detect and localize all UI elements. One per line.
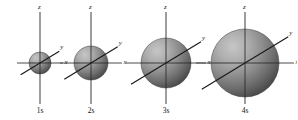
orbital-3s (126, 12, 206, 104)
orbital-name-label: 1s (30, 107, 50, 115)
orbital-name-label: 2s (81, 107, 101, 115)
orbital-name-label: 3s (156, 107, 176, 115)
y-axis-label: y (119, 40, 122, 47)
s-orbital-figure: zxy1szxy2szxy3szxy4s (0, 0, 297, 120)
orbital-name-label: 4s (235, 107, 255, 115)
x-axis-label: x (296, 59, 298, 66)
orbital-2s (60, 12, 122, 104)
z-axis-label: z (38, 4, 41, 11)
z-axis-label: z (164, 4, 167, 11)
x-axis-label: x (124, 59, 127, 66)
y-axis-label: y (289, 30, 292, 37)
z-axis-label: z (89, 4, 92, 11)
orbital-1s (17, 12, 63, 104)
x-axis-label: x (208, 59, 211, 66)
x-axis-label: x (65, 59, 68, 66)
y-axis-label: y (60, 44, 63, 51)
orbital-diagram-canvas (0, 0, 297, 120)
z-axis-label: z (243, 4, 246, 11)
y-axis-label: y (202, 35, 205, 42)
